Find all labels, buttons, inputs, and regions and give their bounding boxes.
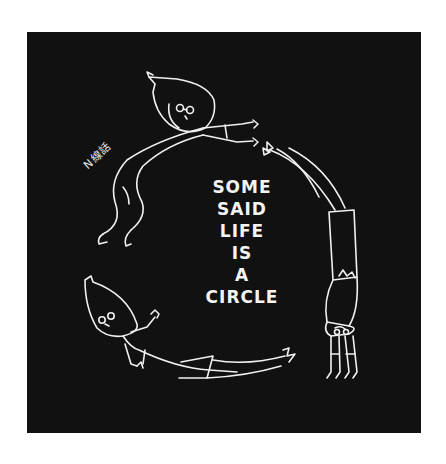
phrase-line: IS	[187, 242, 297, 264]
phrase-line: A	[187, 264, 297, 286]
phrase-line: LIFE	[187, 220, 297, 242]
phrase-line: CIRCLE	[187, 286, 297, 308]
phrase-line: SOME	[187, 176, 297, 198]
phrase-line: SAID	[187, 198, 297, 220]
center-phrase: SOME SAID LIFE IS A CIRCLE	[187, 176, 297, 308]
artwork-canvas: N線話 SOME SAID LIFE IS A CIRCLE	[27, 32, 421, 433]
